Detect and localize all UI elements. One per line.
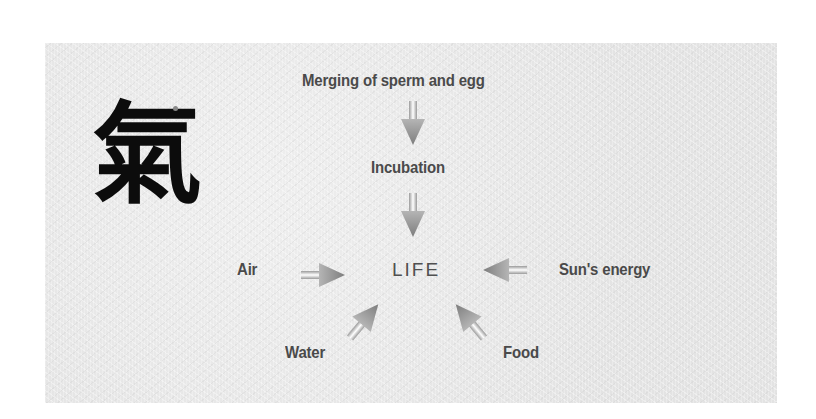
arrow-air-to-life — [301, 263, 345, 287]
node-merging: Merging of sperm and egg — [302, 71, 485, 91]
node-air: Air — [237, 260, 257, 280]
node-life: LIFE — [392, 259, 440, 281]
arrows-layer — [0, 0, 816, 419]
arrow-food-to-life — [447, 297, 494, 346]
arrow-merging-to-incubation — [401, 101, 425, 145]
arrow-incubation-to-life — [401, 193, 425, 237]
arrow-sun-to-life — [483, 258, 527, 282]
node-incubation: Incubation — [371, 158, 445, 178]
node-food: Food — [503, 343, 539, 363]
arrow-water-to-life — [341, 297, 388, 346]
node-sun: Sun's energy — [559, 260, 650, 280]
node-water: Water — [285, 343, 325, 363]
